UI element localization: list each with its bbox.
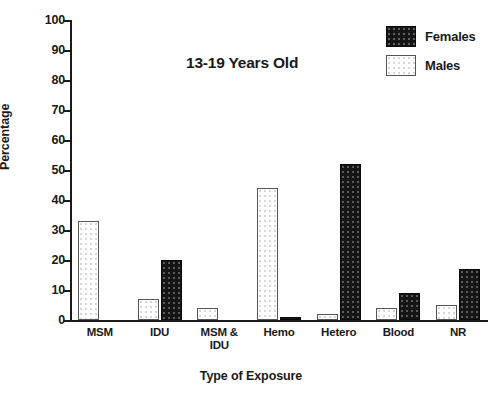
x-axis-category-label: Hemo (249, 326, 309, 339)
legend: Females Males (386, 26, 476, 84)
y-axis-tick-label: 60 (51, 133, 65, 147)
x-axis-category-label: MSM & IDU (189, 326, 249, 352)
bar-group (130, 20, 190, 320)
bar-males[interactable] (197, 308, 218, 320)
y-axis-tick-label: 100 (45, 13, 65, 27)
legend-item-females: Females (386, 26, 476, 47)
bar-males[interactable] (138, 299, 159, 320)
y-axis-tick-label: 30 (51, 223, 65, 237)
bar-females[interactable] (280, 317, 301, 320)
y-axis-tick-label: 70 (51, 103, 65, 117)
bar-males[interactable] (376, 308, 397, 320)
x-axis-category-label: Blood (369, 326, 429, 339)
x-axis-category-label: MSM (70, 326, 130, 339)
bar-males[interactable] (257, 188, 278, 320)
bar-chart: 13-19 Years Old Percentage Type of Expos… (0, 0, 502, 397)
legend-item-males: Males (386, 55, 476, 76)
x-axis-title: Type of Exposure (0, 369, 502, 383)
bar-males[interactable] (78, 221, 99, 320)
bar-group (189, 20, 249, 320)
legend-label-males: Males (425, 58, 460, 73)
y-axis-tick-label: 40 (51, 193, 65, 207)
y-axis-tick-label: 0 (58, 313, 65, 327)
bar-females[interactable] (340, 164, 361, 320)
legend-label-females: Females (425, 29, 476, 44)
x-axis-line (70, 320, 488, 322)
x-axis-category-label: Hetero (309, 326, 369, 339)
bar-females[interactable] (399, 293, 420, 320)
y-axis-tick-label: 80 (51, 73, 65, 87)
bar-males[interactable] (436, 305, 457, 320)
x-axis-category-label: NR (428, 326, 488, 339)
y-axis-title: Percentage (0, 104, 12, 170)
bar-females[interactable] (161, 260, 182, 320)
y-axis-tick-label: 90 (51, 43, 65, 57)
y-axis-tick-label: 20 (51, 253, 65, 267)
x-axis-category-label: IDU (130, 326, 190, 339)
y-axis-tick-label: 50 (51, 163, 65, 177)
y-axis-tick-label: 10 (51, 283, 65, 297)
legend-swatch-males-icon (386, 55, 416, 76)
legend-swatch-females-icon (386, 26, 416, 47)
bar-males[interactable] (317, 314, 338, 320)
bar-group (249, 20, 309, 320)
bar-group (309, 20, 369, 320)
bar-females[interactable] (459, 269, 480, 320)
bar-group (70, 20, 130, 320)
